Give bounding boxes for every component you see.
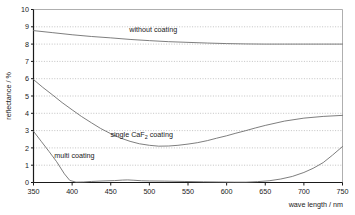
y-axis-title: reflectance / % [4, 72, 13, 120]
x-tick-label: 750 [337, 187, 349, 196]
y-tick-label: 1 [25, 161, 29, 170]
y-tick-label: 7 [25, 57, 29, 66]
y-tick-label: 0 [25, 178, 29, 187]
x-tick-label: 400 [66, 187, 78, 196]
series-label: multi coating [54, 151, 94, 160]
y-tick-label: 8 [25, 40, 29, 49]
x-tick-label: 500 [143, 187, 155, 196]
y-tick-label: 9 [25, 22, 29, 31]
x-tick-label: 700 [298, 187, 310, 196]
y-tick-label: 5 [25, 92, 29, 101]
y-tick-label: 10 [21, 5, 29, 14]
series-label: single CaF2 coating [110, 130, 173, 140]
y-tick-label: 3 [25, 126, 29, 135]
y-tick-label: 6 [25, 74, 29, 83]
chart-container: 012345678910350400450500550600650700750 … [0, 0, 355, 215]
x-tick-label: 600 [221, 187, 233, 196]
x-tick-label: 450 [105, 187, 117, 196]
y-tick-label: 4 [25, 109, 29, 118]
x-tick-label: 650 [259, 187, 271, 196]
y-tick-label: 2 [25, 144, 29, 153]
reflectance-line-chart: 012345678910350400450500550600650700750 … [0, 0, 355, 215]
series-label: without coating [128, 25, 177, 34]
x-tick-label: 350 [28, 187, 40, 196]
x-tick-label: 550 [182, 187, 194, 196]
x-axis-title: wave length / nm [288, 200, 343, 209]
